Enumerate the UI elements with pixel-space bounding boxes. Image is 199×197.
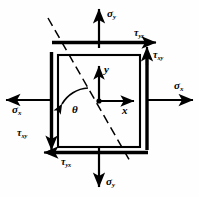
label-tau-xy-left: τxy <box>17 128 27 139</box>
label-axis-x: x <box>122 105 128 116</box>
label-tau-yx-bottom: τyx <box>61 157 71 168</box>
inclined-plane-dashed-line <box>48 18 131 163</box>
label-sigma-y-top: σy <box>107 8 116 21</box>
label-tau-yx-top: τyx <box>134 28 144 39</box>
stress-element-figure: σy τyx τxy σx σx τxy τyx σy y x θ <box>0 0 199 197</box>
label-axis-y: y <box>104 64 109 75</box>
label-sigma-y-bottom: σy <box>106 176 115 189</box>
axis-origin-dot <box>96 98 101 103</box>
label-sigma-x-right: σx <box>174 80 183 93</box>
label-sigma-x-left: σx <box>12 104 21 117</box>
label-tau-xy-right: τxy <box>153 50 163 61</box>
theta-angle-arc <box>62 88 88 104</box>
label-theta-angle: θ <box>72 104 78 115</box>
stress-element-drawing <box>0 0 199 197</box>
